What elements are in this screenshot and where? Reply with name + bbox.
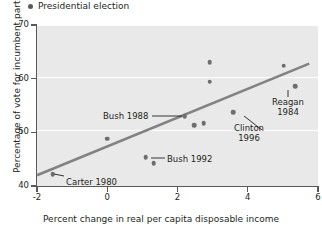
data-point <box>51 172 56 177</box>
data-point <box>231 110 236 115</box>
y-tick-70 <box>31 24 36 25</box>
x-tick-label-6: 6 <box>306 193 322 202</box>
data-point <box>208 60 213 65</box>
chart-legend: Presidential election <box>28 1 129 11</box>
annotation-clinton-1996: Clinton1996 <box>209 124 289 143</box>
annotation-bush-1988-line-1: Bush 1988 <box>103 112 148 122</box>
x-tick-label-2: 2 <box>166 193 190 202</box>
x-axis-title: Percent change in real per capita dispos… <box>0 214 322 224</box>
x-tick-label-4: 4 <box>236 193 260 202</box>
x-tick-label--2: -2 <box>25 193 49 202</box>
annotation-bush-1988: Bush 1988 <box>103 112 148 122</box>
y-tick-label-40: 40 <box>0 181 29 190</box>
y-tick-60 <box>31 78 36 79</box>
x-tick-label-0: 0 <box>95 193 119 202</box>
annotation-reagan-1984: Reagan1984 <box>248 98 322 117</box>
data-point <box>208 80 213 85</box>
annotation-bush-1992-line-1: Bush 1992 <box>167 155 212 165</box>
gridline-60 <box>37 77 318 78</box>
annotation-carter-1980-line-1: Carter 1980 <box>66 178 117 188</box>
data-point <box>144 155 149 160</box>
data-point <box>151 161 156 166</box>
annotation-clinton-1996-line-2: 1996 <box>209 134 289 144</box>
annotation-reagan-1984-line-2: 1984 <box>248 108 322 118</box>
data-point <box>105 136 110 141</box>
annotation-carter-1980: Carter 1980 <box>66 178 117 188</box>
legend-marker-icon <box>28 4 33 9</box>
chart-figure: Presidential election 40506070-20246 Per… <box>0 0 322 226</box>
y-tick-40 <box>31 185 36 186</box>
y-tick-50 <box>31 132 36 133</box>
y-axis-line <box>36 24 37 187</box>
data-point <box>182 114 187 119</box>
y-axis-title: Percentage of vote for incumbent party <box>12 13 22 173</box>
annotation-bush-1992: Bush 1992 <box>167 155 212 165</box>
gridline-70 <box>37 25 318 26</box>
data-point <box>281 63 286 68</box>
data-point <box>202 121 207 126</box>
legend-label: Presidential election <box>38 1 129 11</box>
data-point <box>192 123 197 128</box>
data-point <box>293 84 298 89</box>
